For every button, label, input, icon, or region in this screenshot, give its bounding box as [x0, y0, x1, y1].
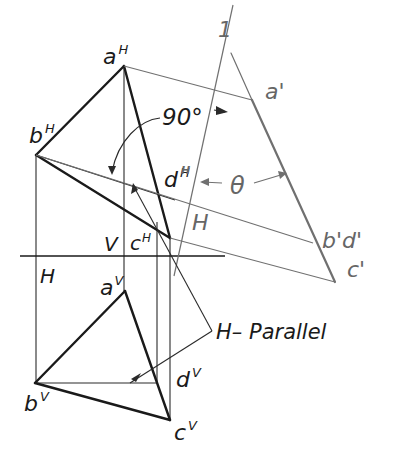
label-c-prime: c'	[347, 257, 365, 282]
auxiliary-view-diagram: aH bH 90° dH cH V H aV bV dV cV H– Paral…	[0, 0, 396, 453]
label-90-degrees: 90°	[162, 104, 203, 130]
label-b-prime-d-prime: b'd'	[322, 228, 362, 253]
label-fold-1: 1	[218, 17, 232, 42]
label-fold-H: H	[40, 264, 55, 288]
edge-bV-cV	[35, 383, 170, 420]
arrowhead-90-right	[216, 106, 228, 115]
h-parallel-leader-top	[131, 183, 212, 331]
top-view-triangle	[36, 66, 170, 238]
aux-edge-view	[252, 100, 335, 282]
label-a-prime: a'	[265, 79, 285, 104]
edge-aH-cH	[124, 66, 170, 238]
edge-aH-bH	[36, 66, 124, 155]
label-bV: bV	[24, 389, 50, 416]
theta-arrowhead-left	[200, 178, 209, 186]
curved-arrow-90	[112, 118, 160, 172]
aux-line-top	[231, 53, 252, 100]
projector-a-aux	[124, 66, 252, 100]
label-aH: aH	[103, 42, 128, 69]
label-dV: dV	[176, 365, 202, 392]
front-view-triangle	[35, 291, 170, 420]
label-bH: bH	[29, 121, 55, 148]
label-cH: cH	[130, 231, 151, 255]
label-fold-H-aux: H	[192, 210, 209, 235]
arrowhead-90-down	[108, 166, 116, 175]
edge-aV-bV	[35, 291, 125, 383]
label-fold-H-small: H	[181, 164, 190, 177]
label-theta: θ	[230, 172, 245, 200]
edge-aV-cV	[125, 291, 170, 420]
label-fold-V: V	[104, 232, 119, 256]
fold-line-h-1	[174, 5, 233, 276]
label-h-parallel: H– Parallel	[216, 320, 327, 344]
label-cV: cV	[174, 418, 198, 445]
projector-c-aux	[170, 238, 335, 282]
